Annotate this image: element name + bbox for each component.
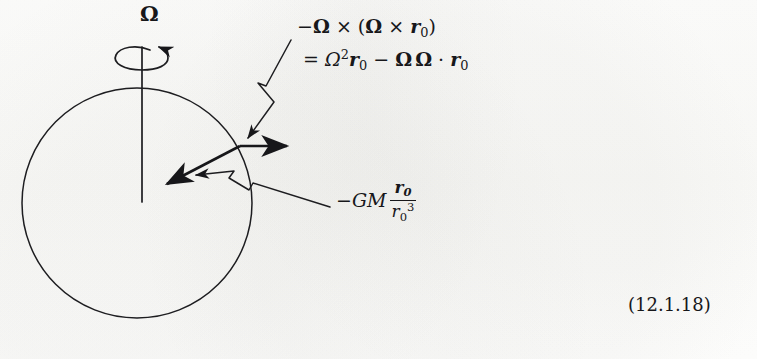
cross-product-operator-2: × bbox=[388, 15, 404, 37]
leader-line-centrifugal bbox=[248, 40, 291, 138]
centrifugal-expression-line-1: −Ω × (Ω × r0) bbox=[297, 17, 468, 40]
figure-canvas: Ω −Ω × (Ω × r0) = Ω2r0 − ΩΩ · r0 −GM r0 … bbox=[0, 0, 757, 359]
position-vector-r-term-2: r bbox=[450, 48, 460, 70]
earth-sphere-outline bbox=[22, 88, 252, 318]
equation-number: (12.1.18) bbox=[628, 296, 711, 314]
dot-product-operator: · bbox=[438, 48, 444, 70]
cross-product-operator-1: × bbox=[336, 15, 352, 37]
gravity-minus-sign: − bbox=[336, 191, 352, 210]
fraction-denominator: r03 bbox=[390, 201, 417, 223]
omega-vector-a: Ω bbox=[395, 48, 412, 70]
denominator-r: r bbox=[392, 202, 400, 222]
leader-line-gravity bbox=[196, 171, 330, 207]
omega-scalar: Ω bbox=[325, 48, 341, 70]
centrifugal-expression-line-2: = Ω2r0 − ΩΩ · r0 bbox=[297, 49, 468, 73]
omega-vector-b: Ω bbox=[415, 48, 432, 70]
position-vector-r-term-1-subscript: 0 bbox=[359, 57, 367, 72]
position-vector-r-term-1: r bbox=[349, 48, 359, 70]
r-over-r-cubed-fraction: r0 r03 bbox=[390, 179, 417, 223]
omega-vector-1: Ω bbox=[313, 15, 330, 37]
minus-sign: − bbox=[297, 15, 313, 37]
fraction-numerator: r0 bbox=[393, 179, 414, 200]
omega-angular-velocity-label: Ω bbox=[140, 3, 159, 25]
omega-vector-2: Ω bbox=[365, 15, 382, 37]
denominator-r-exponent: 3 bbox=[407, 200, 414, 214]
numerator-r-subscript: 0 bbox=[403, 185, 411, 199]
position-vector-r-term-2-subscript: 0 bbox=[460, 57, 468, 72]
close-paren: ) bbox=[428, 15, 435, 37]
gravitational-acceleration-expression: −GM r0 r03 bbox=[336, 178, 416, 222]
mass-M: M bbox=[367, 191, 386, 210]
gravitational-constant-G: G bbox=[352, 191, 367, 210]
denominator-r-subscript: 0 bbox=[400, 210, 407, 224]
centrifugal-acceleration-expression: −Ω × (Ω × r0) = Ω2r0 − ΩΩ · r0 bbox=[297, 17, 468, 72]
omega-scalar-exponent: 2 bbox=[341, 47, 349, 62]
minus-sign-line-2: − bbox=[373, 48, 389, 70]
omega-symbol: Ω bbox=[140, 1, 159, 26]
equals-sign: = bbox=[303, 48, 319, 70]
position-vector-r: r bbox=[410, 15, 420, 37]
